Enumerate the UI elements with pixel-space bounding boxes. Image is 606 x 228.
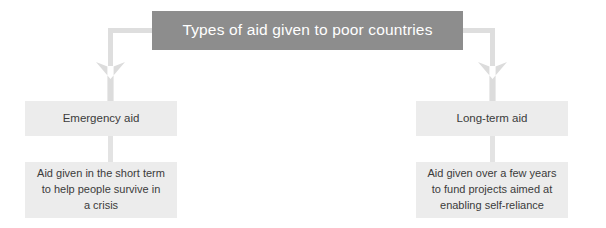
node-detail-emergency: Aid given in the short term to help peop… [25,162,177,218]
node-detail-emergency-label: Aid given in the short term to help peop… [30,166,172,214]
node-branch-emergency: Emergency aid [25,101,177,136]
node-title: Types of aid given to poor countries [152,11,463,50]
node-title-label: Types of aid given to poor countries [152,21,463,40]
arrowhead-right [478,62,507,101]
node-branch-long-term-label: Long-term aid [416,111,568,125]
arrowhead-left [96,62,125,101]
connector-elbow-left [111,31,153,67]
diagram-canvas: Types of aid given to poor countries Eme… [0,0,606,228]
node-branch-emergency-label: Emergency aid [25,111,177,125]
node-detail-long-term-label: Aid given over a few years to fund proje… [421,166,563,214]
connector-elbow-right [463,31,493,67]
node-detail-long-term: Aid given over a few years to fund proje… [416,162,568,218]
node-branch-long-term: Long-term aid [416,101,568,136]
